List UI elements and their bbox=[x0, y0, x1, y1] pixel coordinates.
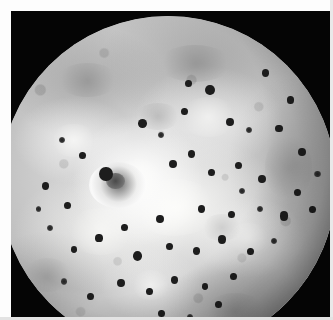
frame-border-top bbox=[0, 0, 333, 11]
io-limb-darkening bbox=[11, 16, 330, 317]
space-background bbox=[11, 11, 330, 317]
photo-frame: Grayscale spacecraft photograph of Jupit… bbox=[0, 0, 333, 320]
frame-border-left bbox=[0, 0, 11, 320]
io-disk bbox=[11, 16, 330, 317]
